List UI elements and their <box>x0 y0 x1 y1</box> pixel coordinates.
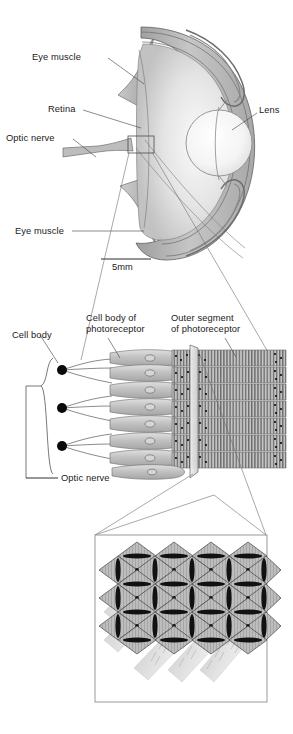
label-lens: Lens <box>259 105 280 116</box>
label-eye-muscle-bottom: Eye muscle <box>15 226 64 237</box>
label-scale-bar: 5mm <box>112 262 133 273</box>
link-plane-detail-top2 <box>214 495 266 535</box>
nucleus <box>145 438 155 444</box>
ommatidia-grid <box>99 542 281 654</box>
ommatidia-cross-section-detail <box>95 535 281 702</box>
outer-segment <box>172 418 286 434</box>
photoreceptor-array <box>26 335 286 479</box>
nucleus <box>148 469 157 475</box>
outer-segment <box>172 452 286 468</box>
cell-body-dot <box>57 441 67 451</box>
outer-segment <box>172 350 286 366</box>
link-plane-detail-top <box>95 495 214 535</box>
diagram-canvas <box>0 0 293 734</box>
label-outer-segment-line1: Outer segment <box>171 313 234 324</box>
nucleus <box>145 404 155 410</box>
outer-segment <box>172 384 286 400</box>
label-outer-segment-line2: of photoreceptor <box>171 324 240 335</box>
leader-retina <box>83 110 141 128</box>
nucleus <box>145 387 155 393</box>
nucleus <box>145 421 155 427</box>
label-optic-nerve-top: Optic nerve <box>6 133 55 144</box>
optic-nerve-bracket <box>41 358 53 474</box>
label-cell-body-of-photoreceptor-line1: Cell body of <box>86 313 136 324</box>
lens-shape <box>186 110 252 176</box>
outer-segment <box>172 367 286 383</box>
label-retina: Retina <box>48 104 75 115</box>
axon-bundle-group <box>62 359 112 459</box>
label-optic-nerve-bottom: Optic nerve <box>61 473 110 484</box>
label-cell-body: Cell body <box>12 330 52 341</box>
outer-segment <box>172 401 286 417</box>
nucleus <box>145 455 155 461</box>
eye-anatomy-figure: Eye muscle Retina Optic nerve Lens Eye m… <box>0 0 293 734</box>
optic-nerve-stalk <box>63 138 133 157</box>
cell-body-dot <box>57 403 67 413</box>
nucleus <box>145 355 155 361</box>
photoreceptor-row <box>112 465 185 480</box>
nucleus <box>145 370 155 376</box>
cell-body-dot <box>57 365 67 375</box>
section-plane <box>190 345 198 478</box>
label-eye-muscle-top: Eye muscle <box>32 52 81 63</box>
optic-nerve-bracket-stem <box>26 386 58 478</box>
label-cell-body-of-photoreceptor-line2: photoreceptor <box>86 324 145 335</box>
outer-segment <box>172 435 286 451</box>
link-plane-left-to-detail <box>95 474 193 535</box>
whole-eye-cross-section <box>63 27 257 260</box>
